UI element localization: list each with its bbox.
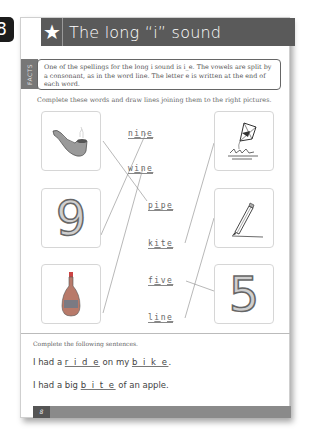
- line-picture[interactable]: [214, 188, 274, 248]
- pipe-picture[interactable]: [41, 111, 101, 171]
- sentence-text: I had a: [33, 357, 65, 367]
- star-icon: ★: [41, 18, 63, 46]
- page-number: 8: [33, 406, 50, 418]
- sentence-blank-ride[interactable]: r i d e: [65, 357, 100, 367]
- footer-bar: 8: [33, 406, 291, 418]
- page-title: The long “i” sound: [63, 23, 221, 42]
- wine-bottle-icon: [59, 270, 83, 318]
- kite-icon: [222, 119, 266, 163]
- header-bar: ★ The long “i” sound: [41, 18, 295, 46]
- kite-picture[interactable]: [214, 111, 274, 171]
- word-blank: e: [167, 313, 173, 322]
- chapter-tab: 8: [0, 17, 14, 42]
- word-line[interactable]: line: [148, 313, 173, 323]
- pipe-icon: [49, 121, 93, 161]
- word-blank: e: [167, 276, 173, 285]
- word-blank: e: [147, 164, 153, 173]
- sentence-text: on my: [100, 357, 132, 367]
- five-picture[interactable]: 5: [214, 264, 274, 324]
- digit-9: 9: [56, 194, 87, 242]
- word-pipe[interactable]: pipe: [148, 201, 173, 211]
- word-blank: e: [147, 129, 153, 138]
- pencil-line-icon: [221, 196, 267, 240]
- word-blank: e: [167, 239, 173, 248]
- wine-picture[interactable]: [41, 264, 101, 324]
- sentence-blank-bite[interactable]: b i t e: [81, 380, 116, 390]
- word-blank: e: [167, 201, 173, 210]
- digit-5: 5: [229, 270, 260, 318]
- sentences-instruction: Complete the following sentences.: [33, 340, 138, 347]
- sentence-text: of an apple.: [116, 380, 169, 390]
- chapter-number: 8: [0, 19, 7, 39]
- word-nine[interactable]: nine: [128, 129, 153, 139]
- word-five[interactable]: five: [148, 276, 173, 286]
- word-wine[interactable]: wine: [128, 164, 153, 174]
- sentence-text: .: [168, 357, 171, 367]
- facts-box: One of the spellings for the long i soun…: [37, 59, 281, 90]
- sentence-2: I had a big b i t e of an apple.: [33, 380, 169, 390]
- sentence-blank-bike[interactable]: b i k e: [132, 357, 169, 367]
- word-kite[interactable]: kite: [148, 239, 173, 249]
- sentence-text: I had a big: [33, 380, 81, 390]
- facts-tab: FACTS: [21, 59, 38, 89]
- section-divider: [21, 333, 291, 334]
- worksheet-page: ★ The long “i” sound FACTS One of the sp…: [20, 17, 290, 418]
- sentence-1: I had a r i d e on my b i k e.: [33, 357, 171, 367]
- nine-picture[interactable]: 9: [41, 188, 101, 248]
- matching-instruction: Complete these words and draw lines join…: [37, 96, 271, 104]
